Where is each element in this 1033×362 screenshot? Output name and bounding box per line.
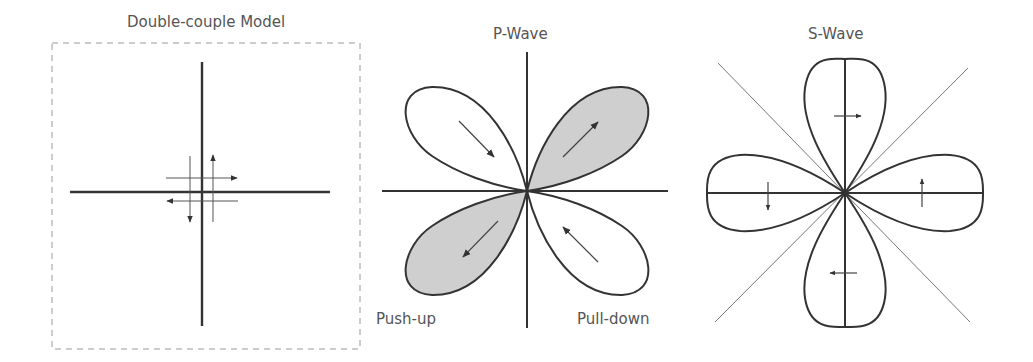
dashed-border [52,43,360,349]
p-lobe-upper-right [527,87,648,191]
seismic-radiation-diagram [0,0,1033,362]
double-couple-panel [52,43,360,349]
s-wave-panel [706,59,984,328]
p-lobe-lower-left [406,191,527,295]
p-lobe-upper-left [406,87,527,191]
p-wave-panel [382,52,668,328]
p-lobe-lower-right [527,191,648,295]
